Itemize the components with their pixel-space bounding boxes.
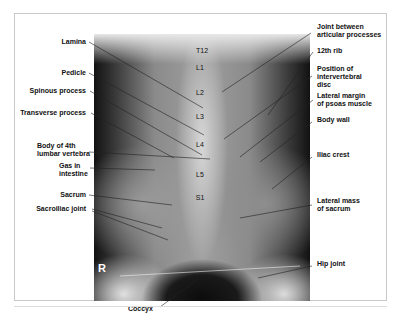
xray-image: T12 L1 L2 L3 L4 L5 S1 R (94, 34, 310, 301)
label-lateral-margin-psoas: Lateral margin of psoas muscle (317, 92, 372, 108)
label-pedicle: Pedicle (61, 69, 86, 77)
label-spinous-process: Spinous process (30, 87, 86, 95)
vertebra-label-l1: L1 (196, 64, 204, 71)
label-lamina: Lamina (61, 38, 86, 46)
label-sacrum: Sacrum (60, 191, 86, 199)
label-hip-joint: Hip joint (317, 260, 345, 268)
vertebra-label-s1: S1 (196, 194, 205, 201)
label-joint-between-articular-processes: Joint between articular processes (317, 23, 381, 39)
label-position-intervertebral-disc: Position of intervertebral disc (317, 65, 362, 89)
label-body-wall: Body wall (317, 116, 350, 124)
label-body-4th-lumbar-vertebra: Body of 4th lumbar vertebra (37, 142, 90, 158)
label-sacroiliac-joint: Sacroiliac joint (36, 205, 86, 213)
bottom-divider (14, 306, 387, 307)
vertebra-label-l2: L2 (196, 89, 204, 96)
vertebra-label-t12: T12 (196, 47, 208, 54)
vertebra-label-l3: L3 (196, 113, 204, 120)
vertebra-label-l4: L4 (196, 141, 204, 148)
label-gas-in-intestine: Gas in intestine (59, 162, 88, 178)
label-lateral-mass-sacrum: Lateral mass of sacrum (317, 197, 360, 213)
side-marker-r: R (98, 262, 106, 274)
vertebra-label-l5: L5 (196, 171, 204, 178)
label-iliac-crest: Iliac crest (317, 151, 349, 159)
label-12th-rib: 12th rib (317, 47, 342, 55)
label-transverse-process: Transverse process (20, 109, 86, 117)
